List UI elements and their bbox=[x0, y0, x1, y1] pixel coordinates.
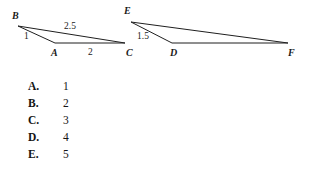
answer-choice-list: A. 1 B. 2 C. 3 D. 4 E. 5 bbox=[28, 80, 148, 165]
geometry-figure: B A C 1 2.5 2 E D F 1.5 bbox=[0, 0, 317, 72]
side-length-bc: 2.5 bbox=[64, 21, 76, 31]
answer-choice-a-value: 1 bbox=[52, 80, 69, 92]
side-length-ab: 1 bbox=[24, 31, 29, 41]
side-length-ac: 2 bbox=[88, 47, 93, 57]
answer-choice-e-value: 5 bbox=[52, 148, 69, 160]
answer-choice-e-letter: E. bbox=[28, 148, 52, 160]
answer-choice-b-letter: B. bbox=[28, 97, 52, 109]
answer-choice-b[interactable]: B. 2 bbox=[28, 97, 148, 114]
vertex-label-d: D bbox=[170, 48, 177, 58]
side-length-ed: 1.5 bbox=[137, 31, 149, 41]
vertex-label-a: A bbox=[51, 48, 58, 58]
answer-choice-d[interactable]: D. 4 bbox=[28, 131, 148, 148]
triangle-def-outline bbox=[131, 22, 288, 43]
answer-choice-c[interactable]: C. 3 bbox=[28, 114, 148, 131]
answer-choice-c-value: 3 bbox=[52, 114, 69, 126]
vertex-label-f: F bbox=[288, 48, 295, 58]
vertex-label-c: C bbox=[126, 48, 133, 58]
answer-choice-a-letter: A. bbox=[28, 80, 52, 92]
figure-svg bbox=[0, 0, 317, 72]
answer-choice-d-value: 4 bbox=[52, 131, 69, 143]
answer-choice-b-value: 2 bbox=[52, 97, 69, 109]
segment-e-f bbox=[131, 22, 288, 43]
answer-choice-d-letter: D. bbox=[28, 131, 52, 143]
answer-choice-e[interactable]: E. 5 bbox=[28, 148, 148, 165]
vertex-label-e: E bbox=[124, 6, 131, 16]
vertex-label-b: B bbox=[12, 11, 19, 21]
answer-choice-a[interactable]: A. 1 bbox=[28, 80, 148, 97]
answer-choice-c-letter: C. bbox=[28, 114, 52, 126]
